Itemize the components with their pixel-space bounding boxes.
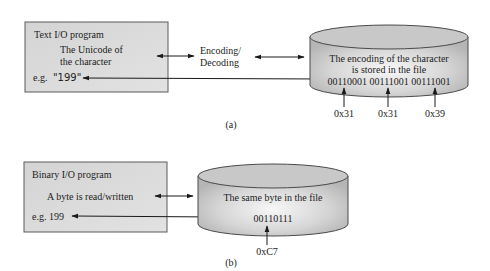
program-box-line1: The Unicode of [60, 44, 123, 55]
hex-label-1: 0x31 [334, 108, 354, 119]
hex-label-2: 0x31 [378, 108, 398, 119]
example: e.g. 199 [32, 211, 64, 222]
text-io-program-box: Text I/O program The Unicode of the char… [25, 22, 168, 92]
file-line1: The same byte in the file [223, 192, 323, 203]
hex-label-3: 0x39 [425, 108, 445, 119]
file-cylinder: The encoding of the character is stored … [310, 25, 468, 97]
decoding-label: Decoding [200, 57, 239, 68]
caption-b: (b) [225, 257, 237, 269]
example-prefix: e.g. [33, 72, 47, 83]
file-line1: The encoding of the character [329, 53, 449, 64]
text-vs-binary-io-diagram: Text I/O program The Unicode of the char… [0, 0, 490, 271]
encoding-label: Encoding/ [200, 45, 241, 56]
file-cylinder: The same byte in the file 00110111 [198, 164, 348, 236]
program-box-line1: A byte is read/written [47, 191, 133, 202]
binary-io-program-box: Binary I/O program A byte is read/writte… [24, 162, 167, 232]
panel-b: Binary I/O program A byte is read/writte… [24, 162, 348, 269]
program-box-title: Binary I/O program [32, 169, 112, 180]
example-value: "199" [53, 72, 81, 83]
file-bits: 00110001 00111001 00111001 [327, 76, 450, 87]
hex-label: 0xC7 [256, 246, 278, 257]
file-line2: is stored in the file [352, 64, 427, 75]
file-bits: 00110111 [254, 213, 293, 224]
program-box-line2: the character [60, 56, 112, 67]
program-box-title: Text I/O program [34, 29, 104, 40]
caption-a: (a) [225, 119, 236, 131]
panel-a: Text I/O program The Unicode of the char… [25, 22, 468, 131]
